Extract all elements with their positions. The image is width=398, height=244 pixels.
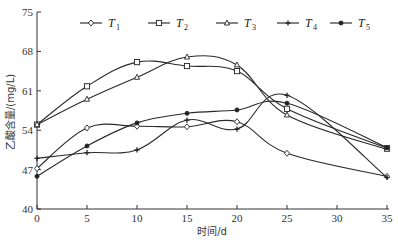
legend-label: T bbox=[358, 16, 366, 30]
diamond-marker-icon bbox=[84, 125, 89, 131]
diamond-marker-icon bbox=[234, 119, 239, 125]
x-tick-label: 5 bbox=[84, 212, 90, 224]
cross-marker-icon bbox=[84, 150, 89, 155]
diamond-marker-icon bbox=[284, 150, 289, 156]
diamond-marker-icon bbox=[184, 124, 189, 130]
series-t4 bbox=[34, 93, 389, 180]
cross-marker-icon bbox=[34, 156, 39, 161]
series-group bbox=[34, 54, 389, 180]
legend-item-t3: T3 bbox=[216, 16, 256, 32]
legend-label: T bbox=[176, 16, 184, 30]
legend-label: T bbox=[305, 16, 313, 30]
cross-marker-icon bbox=[184, 117, 189, 122]
series-line bbox=[37, 56, 387, 150]
y-tick-label: 61 bbox=[22, 85, 33, 97]
dot-marker-icon bbox=[35, 174, 39, 178]
dot-marker-icon bbox=[385, 146, 389, 150]
square-marker-icon bbox=[234, 69, 239, 74]
y-tick-label: 68 bbox=[22, 45, 34, 57]
y-tick-label: 54 bbox=[22, 124, 34, 136]
cross-marker-icon bbox=[285, 20, 290, 25]
legend-subscript: 3 bbox=[252, 23, 256, 32]
cross-marker-icon bbox=[234, 126, 239, 131]
line-chart: 40475461687505101520253035 T1T2T3T4T5 时间… bbox=[0, 0, 398, 244]
diamond-marker-icon bbox=[88, 20, 93, 26]
legend-label: T bbox=[108, 16, 116, 30]
series-t5 bbox=[35, 101, 389, 178]
series-t1 bbox=[34, 119, 389, 180]
square-marker-icon bbox=[184, 63, 189, 68]
y-tick-label: 47 bbox=[22, 164, 34, 176]
legend-item-t2: T2 bbox=[148, 16, 188, 32]
series-t2 bbox=[34, 59, 389, 150]
x-tick-label: 25 bbox=[282, 212, 294, 224]
dot-marker-icon bbox=[135, 121, 139, 125]
legend-subscript: 4 bbox=[313, 23, 317, 32]
legend-item-t1: T1 bbox=[80, 16, 120, 32]
x-tick-label: 0 bbox=[34, 212, 40, 224]
x-tick-label: 20 bbox=[232, 212, 244, 224]
x-tick-label: 30 bbox=[332, 212, 344, 224]
series-t3 bbox=[34, 54, 389, 151]
legend-subscript: 1 bbox=[116, 23, 120, 32]
cross-marker-icon bbox=[284, 93, 289, 98]
square-marker-icon bbox=[84, 84, 89, 89]
legend-subscript: 2 bbox=[184, 23, 188, 32]
y-tick-label: 75 bbox=[22, 6, 34, 18]
x-axis-label: 时间/d bbox=[197, 225, 227, 237]
x-tick-label: 35 bbox=[382, 212, 394, 224]
dot-marker-icon bbox=[339, 21, 343, 25]
y-axis-label: 乙酸含量/(mg/L) bbox=[4, 74, 16, 150]
legend-label: T bbox=[244, 16, 252, 30]
dot-marker-icon bbox=[85, 144, 89, 148]
legend: T1T2T3T4T5 bbox=[80, 16, 370, 32]
x-tick-label: 10 bbox=[132, 212, 144, 224]
legend-item-t5: T5 bbox=[330, 16, 370, 32]
legend-item-t4: T4 bbox=[277, 16, 317, 32]
legend-subscript: 5 bbox=[366, 23, 370, 32]
dot-marker-icon bbox=[185, 111, 189, 115]
axes: 40475461687505101520253035 bbox=[22, 6, 393, 224]
dot-marker-icon bbox=[235, 108, 239, 112]
cross-marker-icon bbox=[134, 147, 139, 152]
series-line bbox=[37, 94, 387, 177]
square-marker-icon bbox=[134, 59, 139, 64]
x-tick-label: 15 bbox=[182, 212, 194, 224]
dot-marker-icon bbox=[285, 101, 289, 105]
square-marker-icon bbox=[156, 20, 161, 25]
y-tick-label: 40 bbox=[22, 203, 34, 215]
series-line bbox=[37, 61, 387, 148]
square-marker-icon bbox=[284, 106, 289, 111]
